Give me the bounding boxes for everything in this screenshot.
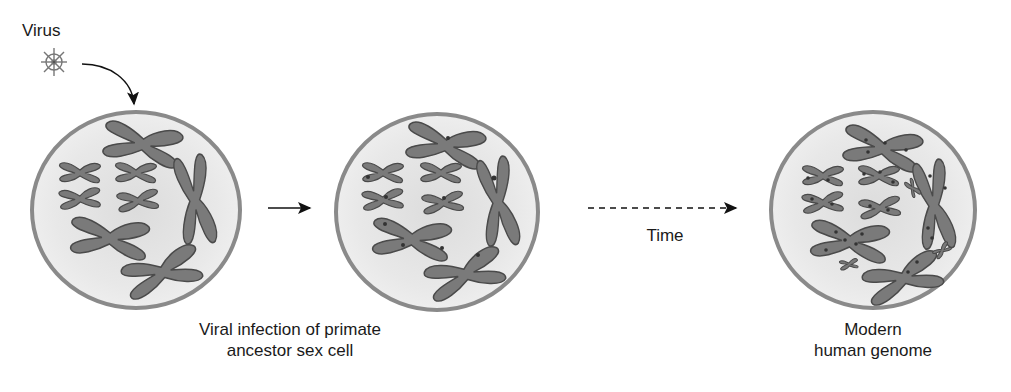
modern-caption: Modern human genome: [773, 319, 973, 361]
modern-caption-line2: human genome: [773, 340, 973, 361]
virus-label: Virus: [22, 20, 92, 41]
modern-genome-cell: [771, 112, 975, 310]
original-cell: [32, 112, 240, 308]
infection-arrow: [82, 64, 134, 104]
virus-icon: [41, 48, 67, 76]
infection-caption: Viral infection of primate ancestor sex …: [160, 319, 420, 361]
infected-cell: [336, 114, 538, 310]
infection-caption-line2: ancestor sex cell: [160, 340, 420, 361]
time-label: Time: [625, 225, 705, 246]
infection-caption-line1: Viral infection of primate: [160, 319, 420, 340]
modern-caption-line1: Modern: [773, 319, 973, 340]
